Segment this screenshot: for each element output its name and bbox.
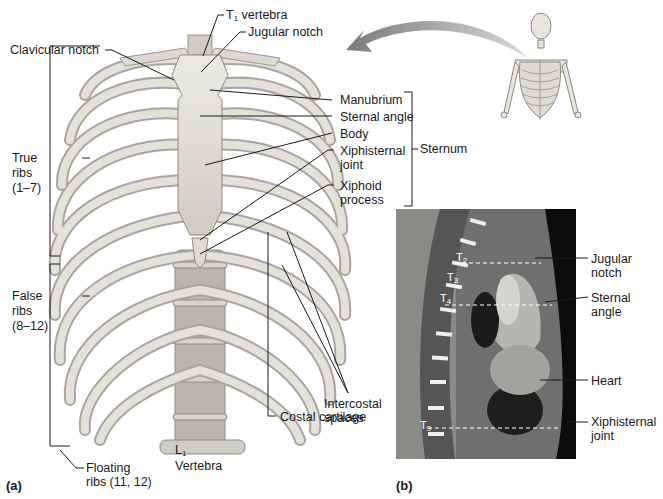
label-false-ribs: Falseribs(8–12) (12, 289, 48, 334)
label-xiphisternal-joint: Xiphisternaljoint (340, 144, 405, 172)
label-b-sternal-angle: Sternalangle (591, 291, 631, 319)
label-jugular-notch: Jugular notch (248, 25, 323, 39)
label-b-heart: Heart (591, 374, 622, 388)
label-b-xiphisternal-joint: Xiphisternaljoint (591, 415, 656, 443)
marker-t9: T9 (420, 418, 431, 436)
skeleton-thumbnail (501, 13, 581, 120)
marker-t4: T4 (440, 291, 451, 309)
label-sternal-angle: Sternal angle (340, 110, 414, 124)
label-manubrium: Manubrium (340, 93, 403, 107)
panel-label-a: (a) (6, 478, 22, 493)
label-l1-vertebra: L1Vertebra (175, 444, 222, 472)
label-b-jugular-notch: Jugularnotch (591, 252, 632, 280)
label-costal-cartilage: Costal cartilage (280, 410, 366, 424)
panel-label-b: (b) (396, 478, 413, 493)
label-sternum: Sternum (420, 142, 467, 156)
label-body: Body (340, 127, 369, 141)
label-clavicular-notch: Clavicular notch (10, 43, 99, 57)
label-floating-ribs: Floatingribs (11, 12) (86, 461, 152, 489)
label-xiphoid-process: Xiphoidprocess (340, 179, 384, 207)
curved-arrow-icon (346, 21, 528, 58)
marker-t2: T2 (456, 250, 467, 268)
marker-t3: T3 (447, 270, 458, 288)
label-true-ribs: Trueribs(1–7) (12, 151, 41, 196)
label-t1-vertebra: T1 vertebra (226, 8, 287, 26)
